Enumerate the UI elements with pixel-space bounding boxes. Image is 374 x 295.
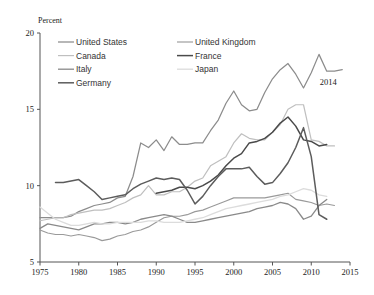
legend-label: France [195, 51, 222, 61]
legend-label: United States [76, 37, 127, 47]
legend-item: France [177, 51, 222, 61]
x-tick-label: 1990 [148, 267, 165, 277]
legend-item: Canada [58, 51, 106, 61]
legend-label: Canada [76, 51, 106, 61]
series-line-united-kingdom [40, 193, 335, 240]
chart-container: 5101520197519801985199019952000200520102… [0, 0, 374, 295]
y-axis-label: Percent [38, 16, 63, 25]
legend-item: Italy [58, 64, 92, 74]
line-chart: 5101520197519801985199019952000200520102… [0, 0, 374, 295]
legend-label: Japan [195, 64, 218, 74]
legend-label: Italy [76, 64, 92, 74]
x-tick-label: 1980 [70, 267, 87, 277]
y-tick-label: 15 [26, 104, 35, 114]
legend-item: United Kingdom [177, 37, 255, 47]
series-line-canada [40, 105, 335, 221]
x-tick-label: 1995 [187, 267, 204, 277]
chart-legend: United StatesCanadaItalyGermanyUnited Ki… [58, 37, 255, 88]
x-tick-label: 2010 [303, 267, 320, 277]
legend-item: Germany [58, 78, 112, 88]
x-tick-label: 2015 [342, 267, 359, 277]
x-tick-label: 2000 [225, 267, 242, 277]
x-tick-label: 1985 [109, 267, 126, 277]
y-tick-label: 5 [30, 257, 34, 267]
series-line-italy [40, 199, 327, 230]
legend-label: United Kingdom [195, 37, 255, 47]
chart-annotation: 2014 [320, 77, 338, 87]
y-tick-label: 10 [26, 181, 35, 191]
x-tick-label: 2005 [264, 267, 281, 277]
x-tick-label: 1975 [32, 267, 49, 277]
legend-item: Japan [177, 64, 218, 74]
legend-label: Germany [76, 78, 112, 88]
annotation-layer: 2014 [320, 77, 338, 87]
y-tick-label: 20 [26, 28, 35, 38]
legend-item: United States [58, 37, 127, 47]
